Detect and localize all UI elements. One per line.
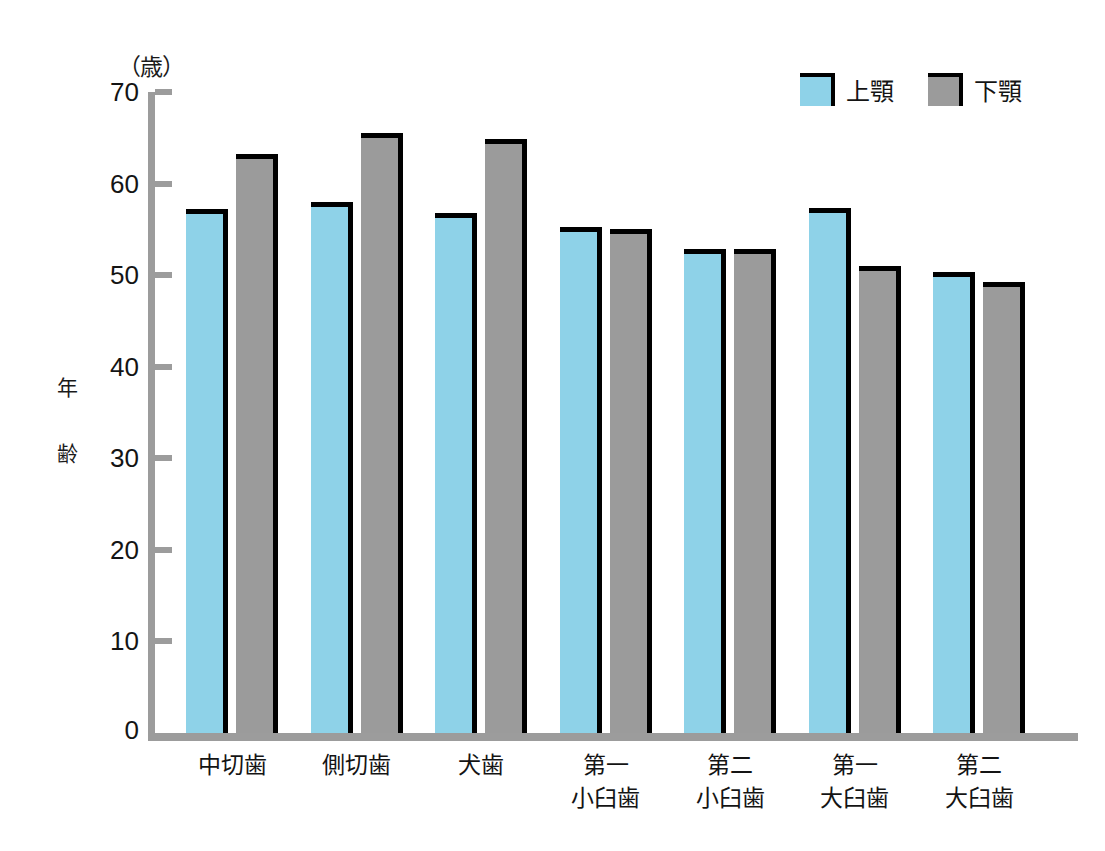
y-axis-title: 年 齢 <box>52 355 82 487</box>
x-axis-label-line: 第二 <box>904 749 1054 782</box>
y-tick-50: 50 <box>155 272 172 278</box>
x-axis-label-line: 大臼歯 <box>904 782 1054 815</box>
bar-lower-jaw-犬歯 <box>485 139 527 733</box>
bar-upper-jaw-中切歯 <box>186 209 228 733</box>
bar-lower-jaw-第二小臼歯 <box>734 249 776 733</box>
y-axis-title-char-2: 齢 <box>52 421 82 487</box>
y-tick-40: 40 <box>155 364 172 370</box>
y-tick-label-0: 0 <box>125 715 139 746</box>
bar-upper-jaw-第一大臼歯 <box>809 208 851 733</box>
bar-chart: （歳） 年 齢 上顎 下顎 010203040506070 中切歯側切歯犬歯第一… <box>0 0 1105 851</box>
bar-lower-jaw-第一大臼歯 <box>859 266 901 733</box>
x-axis-label-第二大臼歯: 第二大臼歯 <box>904 749 1054 815</box>
bar-upper-jaw-第二小臼歯 <box>684 249 726 733</box>
x-axis-line <box>148 733 1078 741</box>
bar-lower-jaw-第二大臼歯 <box>983 282 1025 733</box>
bar-upper-jaw-第一小臼歯 <box>560 227 602 733</box>
y-tick-label-20: 20 <box>110 534 139 565</box>
y-tick-label-60: 60 <box>110 168 139 199</box>
y-tick-label-50: 50 <box>110 260 139 291</box>
y-tick-70: 70 <box>155 89 172 95</box>
bar-lower-jaw-側切歯 <box>361 133 403 733</box>
bar-lower-jaw-第一小臼歯 <box>610 229 652 733</box>
bar-upper-jaw-側切歯 <box>311 202 353 733</box>
plot-area: 010203040506070 中切歯側切歯犬歯第一小臼歯第二小臼歯第一大臼歯第… <box>148 92 1078 733</box>
y-tick-label-70: 70 <box>110 77 139 108</box>
y-tick-10: 10 <box>155 638 172 644</box>
bar-upper-jaw-犬歯 <box>435 213 477 733</box>
y-tick-30: 30 <box>155 455 172 461</box>
y-tick-20: 20 <box>155 547 172 553</box>
y-tick-label-30: 30 <box>110 443 139 474</box>
y-tick-label-40: 40 <box>110 351 139 382</box>
y-tick-60: 60 <box>155 181 172 187</box>
y-tick-label-10: 10 <box>110 626 139 657</box>
y-axis-title-char-1: 年 <box>52 355 82 421</box>
bar-upper-jaw-第二大臼歯 <box>933 272 975 733</box>
bar-lower-jaw-中切歯 <box>236 154 278 733</box>
y-axis-line <box>148 92 155 733</box>
